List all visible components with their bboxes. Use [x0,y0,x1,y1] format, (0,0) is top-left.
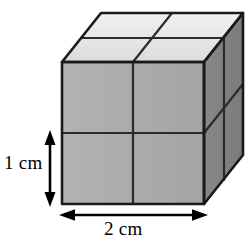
cube-diagram [0,0,252,244]
figure-root: 1 cm 2 cm [0,0,252,244]
height-label: 1 cm [4,152,43,174]
height-dimension-arrow [45,130,56,207]
width-arrow-head-left [59,209,75,221]
height-arrow-head-up [45,130,56,145]
width-label: 2 cm [104,218,143,240]
height-arrow-head-down [45,192,56,207]
width-arrow-head-right [192,209,208,221]
